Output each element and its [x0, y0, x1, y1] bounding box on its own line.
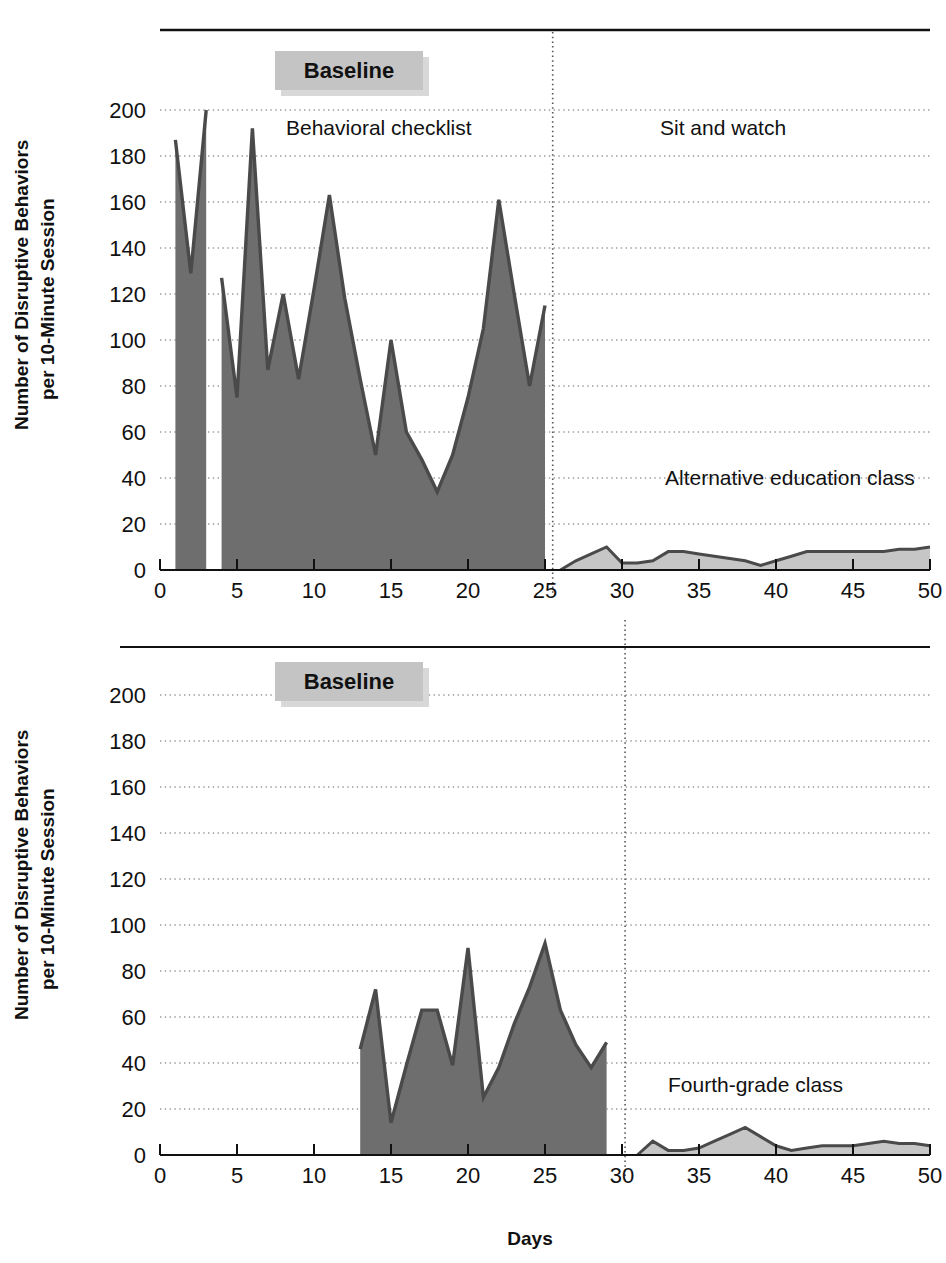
y-axis-title-line2-bottom: per 10-Minute Session	[37, 788, 58, 990]
y-tick-100: 100	[109, 913, 146, 938]
y-tick-40: 40	[122, 1051, 146, 1076]
y-tick-40: 40	[122, 466, 146, 491]
y-tick-120: 120	[109, 282, 146, 307]
x-tick-5: 5	[231, 578, 243, 603]
single-case-design-figure: 020406080100120140160180200 051015202530…	[0, 0, 946, 1263]
y-tick-0: 0	[134, 558, 146, 583]
x-axis-tick-labels-bottom: 05101520253035404550	[154, 1163, 942, 1188]
x-tick-50: 50	[918, 578, 942, 603]
y-tick-0: 0	[134, 1143, 146, 1168]
y-tick-160: 160	[109, 190, 146, 215]
y-axis-title-line2-top: per 10-Minute Session	[37, 198, 58, 400]
x-tick-20: 20	[456, 1163, 480, 1188]
y-tick-180: 180	[109, 729, 146, 754]
x-tick-30: 30	[610, 578, 634, 603]
x-tick-30: 30	[610, 1163, 634, 1188]
y-tick-60: 60	[122, 1005, 146, 1030]
y-tick-20: 20	[122, 1097, 146, 1122]
x-tick-25: 25	[533, 578, 557, 603]
y-tick-140: 140	[109, 236, 146, 261]
y-tick-20: 20	[122, 512, 146, 537]
y-tick-140: 140	[109, 821, 146, 846]
y-tick-180: 180	[109, 144, 146, 169]
y-tick-200: 200	[109, 683, 146, 708]
series-label-alternative-education-class: Alternative education class	[665, 466, 915, 489]
x-tick-5: 5	[231, 1163, 243, 1188]
x-tick-15: 15	[379, 1163, 403, 1188]
bottom-data-areas	[360, 943, 930, 1155]
baseline-box-label-bottom: Baseline	[304, 669, 395, 694]
chart-panel-bottom: 020406080100120140160180200 051015202530…	[0, 620, 946, 1263]
y-axis-tick-labels-bottom: 020406080100120140160180200	[109, 683, 146, 1168]
phase-label-sit-and-watch: Sit and watch	[660, 116, 786, 139]
series-area-0	[360, 943, 606, 1155]
baseline-condition-box-bottom: Baseline	[275, 662, 429, 707]
x-axis-title: Days	[507, 1228, 552, 1249]
y-tick-80: 80	[122, 374, 146, 399]
x-tick-45: 45	[841, 578, 865, 603]
x-tick-10: 10	[302, 578, 326, 603]
phase-label-behavioral-checklist: Behavioral checklist	[286, 116, 472, 139]
x-tick-10: 10	[302, 1163, 326, 1188]
baseline-box-label-top: Baseline	[304, 58, 395, 83]
series-area-1	[222, 128, 545, 570]
x-tick-0: 0	[154, 578, 166, 603]
x-axis-tick-labels-top: 05101520253035404550	[154, 578, 942, 603]
y-axis-tick-labels-top: 020406080100120140160180200	[109, 98, 146, 583]
y-axis-title-line1-top: Number of Disruptive Behaviors	[11, 140, 32, 430]
top-panel-svg: 020406080100120140160180200 051015202530…	[0, 0, 946, 620]
bottom-panel-svg: 020406080100120140160180200 051015202530…	[0, 620, 946, 1263]
y-tick-120: 120	[109, 867, 146, 892]
y-tick-160: 160	[109, 775, 146, 800]
x-tick-50: 50	[918, 1163, 942, 1188]
series-label-fourth-grade-class: Fourth-grade class	[668, 1073, 843, 1096]
y-tick-60: 60	[122, 420, 146, 445]
x-tick-0: 0	[154, 1163, 166, 1188]
chart-panel-top: 020406080100120140160180200 051015202530…	[0, 0, 946, 620]
x-tick-15: 15	[379, 578, 403, 603]
x-tick-45: 45	[841, 1163, 865, 1188]
x-tick-35: 35	[687, 578, 711, 603]
y-axis-title-line1-bottom: Number of Disruptive Behaviors	[11, 730, 32, 1020]
y-tick-200: 200	[109, 98, 146, 123]
x-tick-35: 35	[687, 1163, 711, 1188]
y-tick-100: 100	[109, 328, 146, 353]
y-tick-80: 80	[122, 959, 146, 984]
x-tick-40: 40	[764, 578, 788, 603]
x-tick-20: 20	[456, 578, 480, 603]
baseline-condition-box-top: Baseline	[275, 51, 429, 96]
x-tick-25: 25	[533, 1163, 557, 1188]
x-tick-40: 40	[764, 1163, 788, 1188]
